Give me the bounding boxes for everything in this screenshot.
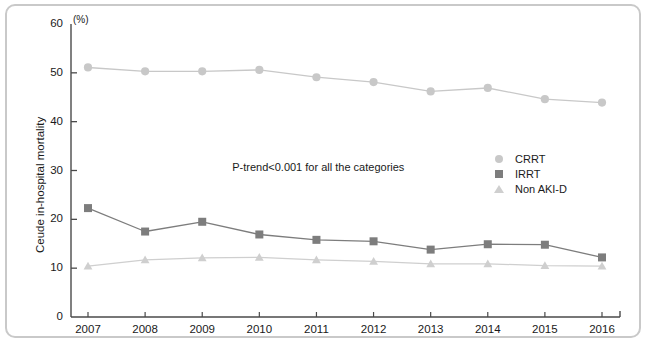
legend-label-non-aki-d: Non AKI-D [515,183,567,195]
x-tick-label: 2013 [409,323,453,335]
x-tick-label: 2007 [66,323,110,335]
data-point-marker [598,253,606,261]
x-tick-label: 2015 [523,323,567,335]
y-tick-label: 10 [37,262,63,273]
y-tick-label: 40 [37,116,63,127]
x-tick-label: 2011 [294,323,338,335]
x-tick-label: 2014 [466,323,510,335]
data-point-marker [255,66,263,74]
data-point-marker [369,78,377,86]
data-point-marker [370,237,378,245]
x-tick-label: 2012 [352,323,396,335]
data-point-marker [312,236,320,244]
data-point-marker [541,241,549,249]
data-point-marker [84,204,92,212]
data-point-marker [598,99,606,107]
data-point-marker [84,63,92,71]
legend-label-crrt: CRRT [515,153,545,165]
p-trend-annotation: P-trend<0.001 for all the categories [232,161,404,173]
x-tick-label: 2016 [580,323,624,335]
y-tick-label: 50 [37,67,63,78]
y-axis-title: Ceude in-hospital mortality [34,117,46,253]
y-tick-label: 20 [37,213,63,224]
data-point-marker [484,240,492,248]
data-point-marker [141,67,149,75]
y-tick-label: 0 [37,311,63,322]
data-point-marker [198,218,206,226]
circle-marker-icon [492,155,506,163]
line-chart: (%) Ceude in-hospital mortality P-trend<… [0,0,652,351]
legend-item-irrt: IRRT [492,166,567,181]
data-point-marker [484,84,492,92]
y-axis-unit-label: (%) [73,14,89,25]
y-tick-label: 30 [37,165,63,176]
legend-item-crrt: CRRT [492,151,567,166]
legend-label-irrt: IRRT [515,168,540,180]
y-tick-label: 60 [37,18,63,29]
data-point-marker [255,230,263,238]
triangle-marker-icon [492,185,506,193]
data-point-marker [427,246,435,254]
x-tick-label: 2010 [237,323,281,335]
x-tick-label: 2009 [180,323,224,335]
data-point-marker [141,228,149,236]
chart-legend: CRRT IRRT Non AKI-D [492,151,567,196]
data-point-marker [198,67,206,75]
legend-item-non-aki-d: Non AKI-D [492,181,567,196]
data-point-marker [427,87,435,95]
x-tick-label: 2008 [123,323,167,335]
data-point-marker [541,95,549,103]
data-point-marker [312,73,320,81]
square-marker-icon [492,170,506,178]
